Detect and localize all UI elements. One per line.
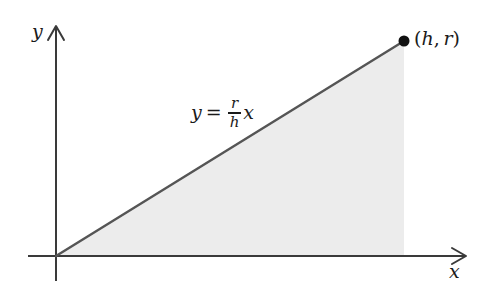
point-label-paren-close: ) xyxy=(453,27,460,49)
equation-equals-sign: = xyxy=(206,103,222,122)
point-label-x-value: h xyxy=(421,27,433,49)
fraction-numerator: r xyxy=(229,96,240,112)
equation-label: y = r h x xyxy=(191,96,254,130)
point-label-y-value: r xyxy=(444,27,453,49)
point-label-h-r: (h, r) xyxy=(414,29,460,48)
point-marker-h-r xyxy=(399,36,410,47)
fraction-denominator: h xyxy=(228,114,242,130)
equation-variable: x xyxy=(243,103,254,122)
y-axis-label: y xyxy=(32,22,43,41)
equation-lhs: y xyxy=(191,103,202,122)
point-label-comma: , xyxy=(434,27,440,49)
x-axis-label: x xyxy=(449,262,460,281)
equation-fraction: r h xyxy=(228,96,242,130)
figure-canvas: y x (h, r) y = r h x xyxy=(0,0,488,290)
